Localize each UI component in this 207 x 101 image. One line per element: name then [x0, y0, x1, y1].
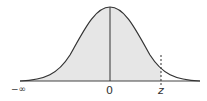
mean-label: 0 — [106, 85, 113, 96]
neg-infinity-label: −∞ — [11, 85, 26, 94]
z-label: z — [158, 85, 164, 96]
shaded-area — [20, 7, 161, 81]
normal-curve-figure — [0, 0, 207, 101]
